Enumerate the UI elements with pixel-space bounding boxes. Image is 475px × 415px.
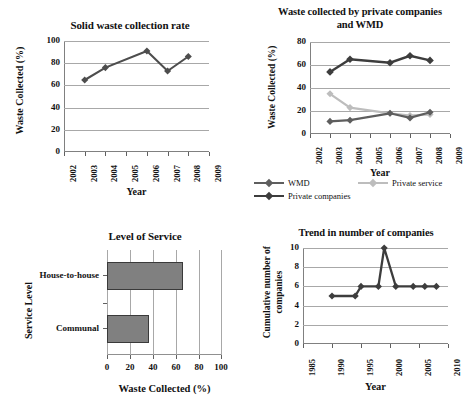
x-tick-label: 2008 [192, 165, 202, 182]
bar-communal[interactable] [107, 315, 149, 343]
panel-level-of-service: Level of Service Service Level House-to-… [0, 205, 238, 415]
x-tick-label: 2003 [89, 165, 99, 182]
y-tick-label: 100 [38, 35, 60, 45]
y-tick-label: 0 [286, 128, 306, 138]
x-tick [310, 134, 311, 138]
x-tick [450, 134, 451, 138]
chart-title: Trend in number of companies [266, 227, 466, 239]
vgridline [221, 250, 222, 355]
chart-title-line2: and WMD [252, 19, 468, 31]
x-tick-label: 40 [143, 362, 163, 372]
series-line-companies [303, 248, 448, 344]
legend-item-private-companies[interactable]: Private companies [254, 191, 351, 201]
x-tick-label: 2006 [151, 165, 161, 182]
series-lines-panel2 [310, 42, 450, 134]
y-tick-label: 0 [38, 146, 60, 156]
x-tick [370, 134, 371, 138]
x-axis-label: Waste Collected (%) [92, 383, 237, 394]
figure-canvas: Solid waste collection rate Waste Collec… [0, 0, 475, 415]
x-tick [147, 152, 148, 156]
x-tick-label: 2006 [394, 147, 404, 164]
x-tick [303, 344, 304, 348]
y-axis-label-line2: companies [274, 237, 284, 347]
chart-title: Solid waste collection rate [30, 19, 230, 31]
x-tick-label: 0 [97, 362, 117, 372]
x-tick [168, 152, 169, 156]
x-axis-label: Year [303, 381, 448, 392]
x-tick-label: 2002 [314, 147, 324, 164]
y-tick-label: 80 [286, 36, 306, 46]
legend-label: WMD [288, 178, 310, 188]
x-tick-label: 60 [166, 362, 186, 372]
x-tick [85, 152, 86, 156]
y-tick-label: 80 [38, 57, 60, 67]
y-axis-label: Waste Collected (%) [267, 32, 277, 142]
x-tick [361, 344, 362, 348]
x-tick [176, 355, 177, 359]
x-tick [448, 344, 449, 348]
plot-area-1: 100 80 60 40 20 0 2002 2003 2004 2005 20… [64, 41, 209, 152]
legend-item-wmd[interactable]: WMD [254, 178, 310, 188]
category-label-house-to-house: House-to-house [21, 270, 99, 280]
y-tick-label: 8 [280, 261, 299, 271]
y-tick-label: 2 [280, 319, 299, 329]
x-tick [350, 134, 351, 138]
legend-label: Private service [392, 178, 442, 188]
plot-area-4: 10 8 6 4 2 0 1985 1990 1995 2000 2005 20… [303, 248, 448, 344]
x-tick [153, 355, 154, 359]
x-tick [419, 344, 420, 348]
legend-item-private-service[interactable]: Private service [358, 178, 442, 188]
y-tick-label: 20 [38, 124, 60, 134]
x-tick [390, 344, 391, 348]
x-tick-label: 2010 [452, 359, 462, 376]
plot-area-2: 80 60 40 20 0 2002 2003 2004 2005 2006 2… [310, 42, 450, 134]
x-tick-label: 1995 [365, 359, 375, 376]
x-tick [209, 152, 210, 156]
series-private-companies [326, 52, 434, 76]
x-tick [410, 134, 411, 138]
legend: WMD Private service Private companies [238, 178, 475, 204]
y-tick-label: 40 [286, 82, 306, 92]
x-tick-label: 2000 [394, 359, 404, 376]
legend-swatch-wmd [254, 178, 284, 188]
x-tick-label: 80 [189, 362, 209, 372]
chart-title: Level of Service [70, 230, 220, 242]
x-tick [430, 134, 431, 138]
y-tick [103, 275, 107, 276]
y-axis-label: Waste Collected (%) [14, 36, 25, 146]
x-tick-label: 2007 [414, 147, 424, 164]
series-line-collection-rate [64, 41, 209, 152]
x-tick-label: 100 [210, 362, 232, 372]
x-axis-label: Year [64, 186, 209, 197]
bar-house-to-house[interactable] [107, 262, 183, 290]
x-tick [330, 134, 331, 138]
x-tick-label: 2003 [334, 147, 344, 164]
x-tick-label: 1990 [336, 359, 346, 376]
x-tick [105, 152, 106, 156]
x-tick-label: 2002 [68, 165, 78, 182]
x-tick [126, 152, 127, 156]
y-tick-label: 10 [280, 242, 299, 252]
y-tick-label: 40 [38, 102, 60, 112]
x-tick-label: 2008 [434, 147, 444, 164]
x-tick [199, 355, 200, 359]
panel-solid-waste-collection-rate: Solid waste collection rate Waste Collec… [0, 0, 238, 205]
x-axis-label: Year [310, 167, 450, 178]
x-tick-label: 2005 [423, 359, 433, 376]
legend-label: Private companies [288, 191, 351, 201]
y-tick-label: 60 [286, 59, 306, 69]
y-axis-label-line1: Cumulative number of [262, 237, 272, 347]
plot-area-3: House-to-house Communal 0 20 40 60 80 10… [107, 250, 222, 355]
chart-title-line1: Waste collected by private companies [252, 6, 468, 18]
category-label-communal: Communal [21, 323, 99, 333]
y-tick [103, 303, 107, 304]
y-tick-label: 6 [280, 280, 299, 290]
x-tick [130, 355, 131, 359]
y-tick-label: 0 [280, 338, 299, 348]
legend-swatch-private-companies [254, 191, 284, 201]
y-tick [103, 328, 107, 329]
x-tick-label: 1985 [307, 359, 317, 376]
x-tick [332, 344, 333, 348]
legend-swatch-private-service [358, 178, 388, 188]
x-tick [390, 134, 391, 138]
